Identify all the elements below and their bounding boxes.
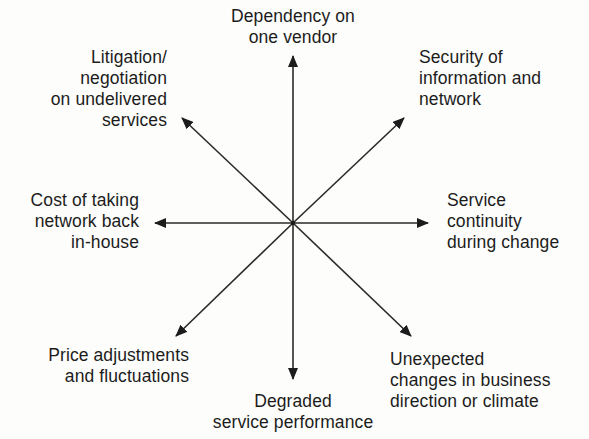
arrow-nw <box>182 118 293 223</box>
label-cost-of-taking-network-back: Cost of taking network back in-house <box>0 190 139 253</box>
arrow-se <box>293 223 411 336</box>
label-dependency-on-one-vendor: Dependency on one vendor <box>193 6 393 48</box>
label-price-adjustments: Price adjustments and fluctuations <box>0 345 189 387</box>
label-security-of-information: Security of information and network <box>419 47 589 110</box>
arrow-ne <box>293 118 404 223</box>
label-service-continuity: Service continuity during change <box>447 190 589 253</box>
label-litigation-negotiation: Litigation/ negotiation on undelivered s… <box>0 47 167 131</box>
label-unexpected-changes: Unexpected changes in business direction… <box>390 349 589 412</box>
center-node <box>291 221 295 225</box>
arrow-sw <box>176 223 293 336</box>
label-degraded-service-performance: Degraded service performance <box>188 391 398 433</box>
